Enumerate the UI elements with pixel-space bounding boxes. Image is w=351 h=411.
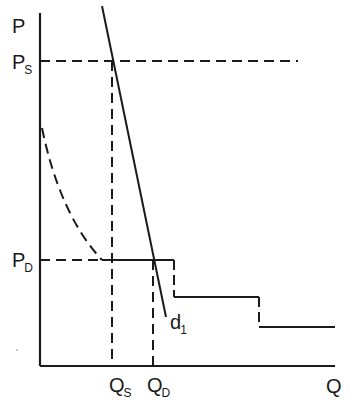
q-axis-text: Q [326, 375, 342, 397]
dashed-curve [42, 128, 102, 260]
pd-label: PD [12, 250, 34, 270]
chart-canvas [0, 0, 351, 411]
d1-label: d1 [170, 312, 188, 332]
d1-sub: 1 [180, 323, 187, 337]
ps-label: PS [12, 52, 33, 72]
p-axis-text: P [12, 15, 25, 37]
qs-label: QS [109, 375, 133, 395]
qd-main: Q [147, 374, 163, 396]
qs-main: Q [109, 374, 125, 396]
pd-sub: D [24, 261, 33, 275]
qd-label: QD [147, 375, 171, 395]
p-axis-label: P [12, 16, 25, 36]
qs-sub: S [124, 386, 132, 400]
ps-sub: S [24, 63, 32, 77]
qd-sub: D [162, 386, 171, 400]
q-axis-label: Q [326, 376, 342, 396]
speck [16, 349, 18, 351]
